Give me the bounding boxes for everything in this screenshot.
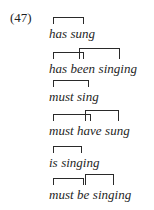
word: singing [99,62,137,75]
word: must [49,90,74,103]
word: sung [105,124,130,137]
word: is [49,156,58,169]
word: been [71,62,96,75]
word: singing [61,156,99,169]
word: be [77,188,89,201]
word: has [49,27,67,40]
word: has [49,62,67,75]
word: sing [77,90,99,103]
dependency-bracket [53,80,89,87]
dependency-bracket [53,17,84,24]
dependency-bracket [85,174,114,185]
word: must [49,124,74,137]
word: sung [71,27,96,40]
dependency-bracket [79,48,120,59]
example-number: (47) [10,10,32,26]
dependency-bracket [85,110,119,121]
dependency-bracket [53,146,82,153]
word: must [49,188,74,201]
word: singing [93,188,131,201]
dependency-bracket [53,178,84,185]
word: have [77,124,102,137]
